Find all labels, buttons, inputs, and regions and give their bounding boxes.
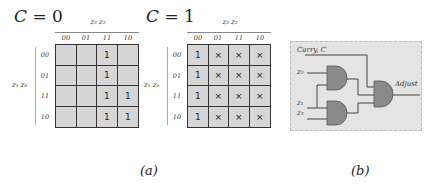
kmap-c0-row-label: 10 <box>38 113 52 121</box>
kmap-c0-row-label: 01 <box>38 72 52 80</box>
caption-b: (b) <box>351 163 369 178</box>
kmap-cell <box>56 107 77 128</box>
kmap-cell: × <box>250 45 271 66</box>
kmap-cell <box>56 45 77 66</box>
kmap-cell: 1 <box>97 86 118 107</box>
kmap-cell: × <box>250 107 271 128</box>
kmap-c0-row-label: 11 <box>38 92 52 100</box>
kmap-cell: 1 <box>97 107 118 128</box>
kmap-c0-col-rule <box>55 32 139 33</box>
kmap-cell: 1 <box>118 107 139 128</box>
kmap-cell: × <box>250 86 271 107</box>
kmap-cell <box>77 107 98 128</box>
kmap-c1-col-label: 10 <box>250 34 270 42</box>
kmap-cell <box>118 66 139 87</box>
title-value: 1 <box>184 6 195 26</box>
kmap-cell <box>56 86 77 107</box>
title-eq: = <box>27 6 52 26</box>
kmap-c0-title: C = 0 <box>14 6 63 26</box>
title-var: C <box>146 6 159 26</box>
kmap-cell: 1 <box>188 107 209 128</box>
kmap-c1-col-rule <box>187 32 271 33</box>
kmap-cell: × <box>229 45 250 66</box>
title-var: C <box>14 6 27 26</box>
kmap-cell: × <box>209 66 230 87</box>
kmap-cell: × <box>250 66 271 87</box>
kmap-cell: × <box>209 107 230 128</box>
kmap-c1-row-label: 10 <box>170 113 184 121</box>
kmap-c1-col-var-label: z₃ z₂ <box>210 18 250 26</box>
kmap-cell: 1 <box>188 45 209 66</box>
kmap-cell: 1 <box>188 86 209 107</box>
kmap-c0-row-brace <box>35 47 36 125</box>
kmap-cell: 1 <box>97 66 118 87</box>
kmap-c1-row-brace <box>167 47 168 125</box>
kmap-c0-col-label: 01 <box>76 34 96 42</box>
kmap-c0-col-label: 10 <box>118 34 138 42</box>
circuit-wiring <box>290 41 422 131</box>
kmap-cell <box>77 45 98 66</box>
kmap-c1-row-var-label: z₁ z₀ <box>144 81 159 89</box>
kmap-c0-grid: 1 1 1 1 1 1 <box>55 44 139 128</box>
kmap-c1-col-label: 00 <box>188 34 208 42</box>
kmap-cell: × <box>229 66 250 87</box>
kmap-cell: × <box>229 107 250 128</box>
kmap-cell: × <box>229 86 250 107</box>
kmap-cell: 1 <box>118 86 139 107</box>
kmap-cell: × <box>209 45 230 66</box>
kmap-cell <box>56 66 77 87</box>
kmap-c0-col-label: 11 <box>97 34 117 42</box>
kmap-cell: 1 <box>188 66 209 87</box>
kmap-c1-row-label: 11 <box>170 92 184 100</box>
kmap-cell: × <box>209 86 230 107</box>
kmap-cell <box>118 45 139 66</box>
and-gate-icon <box>327 101 347 125</box>
kmap-c0-col-var-label: z₃ z₂ <box>78 18 118 26</box>
kmap-c1-col-label: 11 <box>229 34 249 42</box>
kmap-c1-grid: 1 × × × 1 × × × 1 × × × 1 × × × <box>187 44 271 128</box>
kmap-cell <box>77 66 98 87</box>
kmap-c1-row-label: 00 <box>170 51 184 59</box>
and-gate-icon <box>327 66 347 90</box>
kmap-c1-row-label: 01 <box>170 72 184 80</box>
kmap-c1-col-label: 01 <box>208 34 228 42</box>
caption-a: (a) <box>140 163 158 178</box>
kmap-c0-row-var-label: z₁ z₀ <box>12 81 27 89</box>
and-gate-icon <box>374 81 393 107</box>
kmap-c0-col-label: 00 <box>56 34 76 42</box>
kmap-cell: 1 <box>97 45 118 66</box>
title-eq: = <box>159 6 184 26</box>
title-value: 0 <box>52 6 63 26</box>
kmap-c1-title: C = 1 <box>146 6 195 26</box>
kmap-c0-row-label: 00 <box>38 51 52 59</box>
kmap-cell <box>77 86 98 107</box>
